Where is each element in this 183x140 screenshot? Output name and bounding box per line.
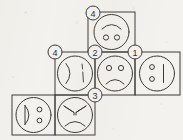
face-top-eye-left [103,35,108,40]
cell-middle-right [135,52,180,95]
face-top-smile-arc [102,25,121,30]
face-top-outline [94,15,129,50]
face-bottom-right [58,98,93,133]
face-top-eye-right [114,35,119,40]
face-bottom-right-outline [58,98,93,133]
face-middle-center-frown [106,80,124,85]
face-bottom-left-outline [16,98,51,133]
face-middle-right-eye-lower [150,77,155,82]
marker-top[interactable]: 4 [86,6,100,20]
marker-middle-right[interactable]: 1 [128,45,142,59]
marker-bottom-label: 3 [92,91,97,101]
face-middle-right-outline [140,56,175,91]
marker-middle-right-label: 1 [132,48,137,58]
face-bottom-right-eye-right [76,106,86,115]
cell-bottom-right [55,95,95,135]
face-bottom-right-eye-left [64,106,74,115]
edge-markers: 4 4 2 1 3 [48,6,142,102]
face-middle-center-eye-left [106,65,111,70]
face-middle-right-eye-upper [150,65,155,70]
cell-middle-center [95,52,135,95]
face-bottom-right-frown [65,122,85,127]
net-cells [12,12,180,135]
diagram-canvas: .cell{fill:none;stroke:#3d3a36;stroke-wi… [0,0,183,140]
face-bottom-left-eye-upper [37,107,42,112]
face-middle-left-bar-lower [83,72,84,82]
marker-top-label: 4 [90,9,95,19]
marker-middle-mid-label: 2 [92,48,97,58]
face-middle-left-paren [66,64,70,84]
cell-bottom-left [12,95,55,135]
cube-net-svg: .cell{fill:none;stroke:#3d3a36;stroke-wi… [0,0,183,140]
face-middle-center-outline [98,56,133,91]
face-middle-center [98,56,133,91]
marker-middle-mid[interactable]: 2 [88,45,102,59]
face-middle-left-outline [58,56,93,91]
face-bottom-left [16,98,51,133]
cell-middle-left [55,52,95,95]
face-bottom-left-mouth-arc [25,106,29,125]
face-middle-right [140,56,175,91]
face-middle-center-eye-right [118,65,123,70]
face-bottom-left-eye-lower [37,118,42,123]
face-middle-left [58,56,93,91]
marker-middle-left[interactable]: 4 [48,45,62,59]
marker-middle-left-label: 4 [52,48,57,58]
face-top [94,15,129,50]
marker-bottom[interactable]: 3 [88,88,102,102]
face-middle-left-bar-upper [82,64,83,69]
